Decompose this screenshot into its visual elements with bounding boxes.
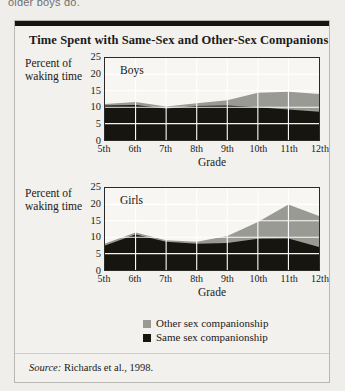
source-divider <box>15 353 329 354</box>
x-tick-5th: 5th <box>98 144 111 154</box>
x-tick-9th: 9th <box>221 274 234 284</box>
y-tick-10: 10 <box>91 102 102 113</box>
y-tick-25: 25 <box>91 182 102 193</box>
figure-title: Time Spent with Same-Sex and Other-Sex C… <box>29 33 328 48</box>
x-tick-10th: 10th <box>249 144 267 154</box>
x-tick-8th: 8th <box>190 274 203 284</box>
x-axis-title-boys: Grade <box>198 156 226 168</box>
legend-swatch-same-sex <box>143 334 151 342</box>
chart-boys: Percent of waking time Boys 0510152025 5… <box>15 51 329 181</box>
x-tick-7th: 7th <box>159 144 172 154</box>
x-tick-7th: 7th <box>159 274 172 284</box>
source-prefix: Source: <box>29 362 61 373</box>
y-tick-20: 20 <box>91 69 102 80</box>
chart-legend: Other sex companionship Same sex compani… <box>143 317 268 345</box>
y-tick-20: 20 <box>91 199 102 210</box>
legend-item-other-sex: Other sex companionship <box>143 317 268 330</box>
figure-box: Time Spent with Same-Sex and Other-Sex C… <box>14 20 330 383</box>
panel-label-boys: Boys <box>120 64 144 76</box>
x-tick-11th: 11th <box>280 144 297 154</box>
plot-area-girls: Girls 0510152025 5th6th7th8th9th10th11th… <box>104 187 320 271</box>
x-tick-12th: 12th <box>311 144 329 154</box>
x-tick-12th: 12th <box>311 274 329 284</box>
figure-source: Source: Richards et al., 1998. <box>29 362 153 373</box>
x-tick-9th: 9th <box>221 144 234 154</box>
x-tick-11th: 11th <box>280 274 297 284</box>
legend-label-other-sex: Other sex companionship <box>156 317 268 330</box>
y-tick-25: 25 <box>91 52 102 63</box>
y-tick-5: 5 <box>96 119 101 130</box>
y-tick-15: 15 <box>91 85 102 96</box>
series-same-sex-boys <box>105 105 319 140</box>
y-tick-5: 5 <box>96 249 101 260</box>
chart-girls: Percent of waking time Girls 0510152025 … <box>15 181 329 311</box>
legend-label-same-sex: Same sex companionship <box>156 331 268 344</box>
y-tick-15: 15 <box>91 215 102 226</box>
source-citation: Richards et al., 1998. <box>64 362 153 373</box>
y-tick-10: 10 <box>91 232 102 243</box>
y-axis-title-girls: Percent of waking time <box>25 187 97 213</box>
plot-area-boys: Boys 0510152025 5th6th7th8th9th10th11th1… <box>104 57 320 141</box>
legend-swatch-other-sex <box>143 320 151 328</box>
x-tick-10th: 10th <box>249 274 267 284</box>
figure-top-rule <box>15 21 329 26</box>
x-tick-6th: 6th <box>128 274 141 284</box>
x-tick-8th: 8th <box>190 144 203 154</box>
panel-label-girls: Girls <box>120 194 143 206</box>
legend-item-same-sex: Same sex companionship <box>143 331 268 344</box>
x-axis-title-girls: Grade <box>198 286 226 298</box>
x-tick-6th: 6th <box>128 144 141 154</box>
x-tick-5th: 5th <box>98 274 111 284</box>
page-body-text-fragment: older boys do. <box>8 0 80 8</box>
y-axis-title-boys: Percent of waking time <box>25 57 97 83</box>
